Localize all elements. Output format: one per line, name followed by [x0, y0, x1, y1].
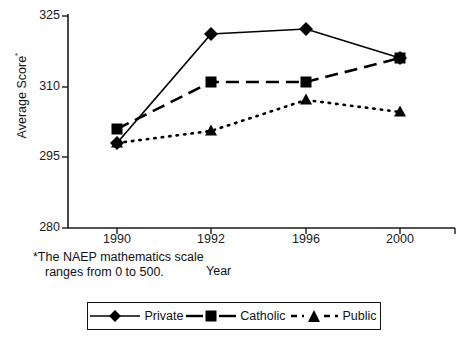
- legend-label-private: Private: [141, 309, 185, 323]
- y-axis-label-superscript: *: [13, 53, 22, 56]
- legend-label-catholic: Catholic: [237, 309, 287, 323]
- legend-swatch-private: [89, 308, 141, 324]
- chart-legend: Private Catholic Public: [87, 302, 381, 330]
- x-tick-label-1992: 1992: [181, 232, 241, 246]
- y-axis-label: Average Score*: [13, 31, 28, 161]
- square-marker-icon: [206, 311, 217, 322]
- triangle-marker-icon: [308, 310, 320, 322]
- legend-item-catholic: Catholic: [185, 308, 287, 324]
- legend-label-public: Public: [340, 309, 379, 323]
- legend-item-private: Private: [89, 308, 185, 324]
- x-axis-label: Year: [206, 264, 231, 278]
- square-marker-icon: [112, 124, 123, 135]
- y-tick-label-295: 295: [26, 149, 60, 163]
- footnote-line-2: ranges from 0 to 500.: [33, 265, 204, 280]
- x-tick-label-2000: 2000: [370, 232, 430, 246]
- series-line-private: [117, 29, 400, 143]
- chart-footnote: *The NAEP mathematics scale ranges from …: [33, 250, 204, 280]
- series-markers-private: [110, 22, 407, 150]
- legend-swatch-public: [288, 308, 340, 324]
- diamond-marker-icon: [299, 22, 313, 36]
- legend-swatch-catholic: [185, 308, 237, 324]
- chart-figure: 325 310 295 280 1990 1992 1996 2000 Aver…: [0, 0, 466, 341]
- legend-item-public: Public: [288, 308, 379, 324]
- y-axis-ticks: [62, 16, 68, 228]
- y-tick-label-310: 310: [26, 79, 60, 93]
- diamond-marker-icon: [109, 310, 121, 322]
- y-tick-label-325: 325: [26, 8, 60, 22]
- footnote-line-1: *The NAEP mathematics scale: [33, 250, 204, 265]
- y-axis-label-text: Average Score: [15, 56, 29, 138]
- x-tick-label-1996: 1996: [276, 232, 336, 246]
- series-markers-catholic: [112, 53, 406, 135]
- y-tick-label-280: 280: [26, 220, 60, 234]
- square-marker-icon: [301, 77, 312, 88]
- x-tick-label-1990: 1990: [87, 232, 147, 246]
- chart-plot-area: [0, 0, 466, 341]
- triangle-marker-icon: [300, 94, 312, 105]
- square-marker-icon: [206, 77, 217, 88]
